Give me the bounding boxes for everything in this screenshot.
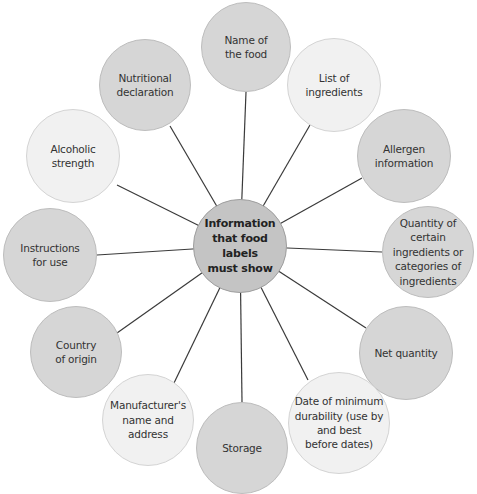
node-label: Name of the food xyxy=(220,33,271,62)
node-label: Quantity of certain ingredients or categ… xyxy=(389,216,467,288)
node-label: List of ingredients xyxy=(302,71,367,100)
node-storage: Storage xyxy=(196,402,288,494)
node-nutritional-declaration: Nutritional declaration xyxy=(99,39,191,131)
node-date-of-minimum-durability: Date of minimum durability (use by and b… xyxy=(288,372,390,474)
node-label: Alcoholic strength xyxy=(27,142,119,171)
node-label: Allergen information xyxy=(371,142,437,171)
center-node: Information that food labels must show xyxy=(193,199,287,293)
node-country-of-origin: Country of origin xyxy=(30,306,122,398)
node-manufacturers-name-and-address: Manufacturer's name and address xyxy=(102,374,194,466)
food-label-diagram: Name of the food List of ingredients All… xyxy=(0,0,477,494)
node-quantity-of-certain-ingredients: Quantity of certain ingredients or categ… xyxy=(382,206,474,298)
node-label: Manufacturer's name and address xyxy=(106,398,190,441)
node-label: Instructions for use xyxy=(16,241,83,270)
node-allergen-information: Allergen information xyxy=(357,109,451,203)
node-name-of-food: Name of the food xyxy=(201,2,291,92)
node-label: Date of minimum durability (use by and b… xyxy=(291,394,388,452)
node-instructions-for-use: Instructions for use xyxy=(3,208,97,302)
node-alcoholic-strength: Alcoholic strength xyxy=(26,109,120,203)
node-label: Net quantity xyxy=(370,346,441,360)
center-label: Information that food labels must show xyxy=(194,216,286,277)
node-list-of-ingredients: List of ingredients xyxy=(287,38,381,132)
node-label: Nutritional declaration xyxy=(113,71,178,100)
node-label: Storage xyxy=(218,441,266,455)
node-label: Country of origin xyxy=(51,338,101,367)
